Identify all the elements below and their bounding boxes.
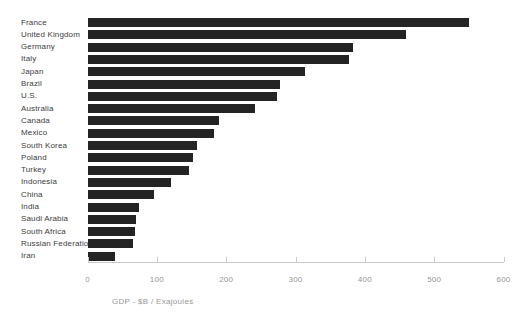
category-label: India [21, 203, 39, 211]
category-label: United Kingdom [21, 31, 80, 39]
category-label: Canada [21, 117, 50, 125]
category-label: Iran [21, 252, 35, 260]
bar-germany [88, 43, 354, 52]
x-tick-mark [157, 257, 158, 262]
bar-indonesia [88, 178, 172, 187]
category-label: China [21, 191, 43, 199]
bar-poland [88, 153, 193, 162]
x-tick-mark [296, 257, 297, 262]
bar-u-s [88, 92, 278, 101]
bar-united-kingdom [88, 30, 407, 39]
bar-mexico [88, 129, 214, 138]
x-tick-mark [226, 257, 227, 262]
x-tick-label: 0 [85, 276, 90, 284]
category-label: Saudi Arabia [21, 215, 68, 223]
bar-brazil [88, 80, 281, 89]
bar-japan [88, 67, 306, 76]
category-label: Mexico [21, 129, 47, 137]
x-tick-mark [365, 257, 366, 262]
category-label: South Africa [21, 228, 66, 236]
gdp-bar-chart: FranceUnited KingdomGermanyItalyJapanBra… [0, 0, 526, 320]
x-tick-mark [88, 257, 89, 262]
bar-italy [88, 55, 349, 64]
category-label: Germany [21, 43, 55, 51]
bar-russian-federation [88, 239, 134, 248]
bar-france [88, 18, 469, 27]
category-label: Italy [21, 55, 36, 63]
bar-iran [88, 252, 115, 261]
bar-india [88, 203, 139, 212]
category-label: France [21, 19, 47, 27]
category-label: Poland [21, 154, 47, 162]
x-tick-mark [434, 257, 435, 262]
bar-turkey [88, 166, 190, 175]
category-label: Australia [21, 105, 53, 113]
bar-south-korea [88, 141, 198, 150]
x-tick-label: 300 [289, 276, 303, 284]
x-axis-label: GDP - $B / Exajoules [112, 298, 193, 306]
x-tick-label: 600 [497, 276, 511, 284]
x-tick-label: 500 [427, 276, 441, 284]
bar-saudi-arabia [88, 215, 137, 224]
x-tick-mark [504, 257, 505, 262]
category-label: Russian Federation [21, 240, 93, 248]
x-tick-label: 200 [219, 276, 233, 284]
bar-canada [88, 116, 219, 125]
category-label: Japan [21, 68, 44, 76]
bar-australia [88, 104, 256, 113]
x-tick-label: 100 [150, 276, 164, 284]
x-tick-label: 400 [358, 276, 372, 284]
category-label: South Korea [21, 142, 67, 150]
bar-south-africa [88, 227, 136, 236]
category-label: U.S. [21, 92, 37, 100]
category-label: Turkey [21, 166, 46, 174]
category-label: Indonesia [21, 178, 57, 186]
x-axis-line [88, 262, 504, 263]
category-label: Brazil [21, 80, 42, 88]
bar-china [88, 190, 155, 199]
